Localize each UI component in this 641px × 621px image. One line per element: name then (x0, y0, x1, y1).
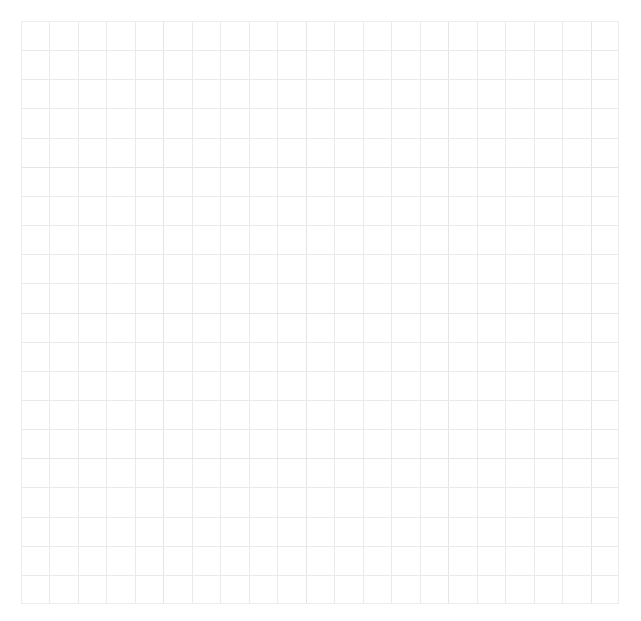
grid-lines (21, 21, 619, 604)
plot-area[interactable] (21, 21, 619, 604)
chart-title-strip: Figure title (cropped) (0, 0, 641, 7)
horizontal-gridlines (21, 22, 619, 605)
figure-canvas: Figure title (cropped) (0, 0, 641, 621)
